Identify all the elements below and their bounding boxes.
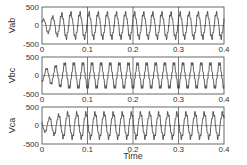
x-tick-label: 0.3: [173, 45, 185, 54]
figure: 500 0 -500 Vab 00.10.20.30.4 500 0 -500 …: [0, 0, 247, 165]
x-tick-label: 0.4: [218, 45, 230, 54]
x-tick-label: 0.1: [82, 45, 94, 54]
vab-xticks: 00.10.20.30.4: [40, 45, 230, 54]
panel-vca: 500 0 -500 Vca 00.10.20.30.4: [7, 103, 230, 154]
x-tick-label: 0.1: [82, 95, 94, 104]
vab-ylabel: Vab: [7, 18, 17, 33]
x-tick-label: 0.4: [218, 145, 230, 154]
vbc-ytick-top: 500: [26, 53, 40, 62]
vca-ytick-bot: -500: [23, 140, 40, 149]
vab-ytick-top: 500: [26, 3, 40, 12]
panel-vab: 500 0 -500 Vab 00.10.20.30.4: [7, 3, 230, 54]
x-tick-label: 0: [40, 145, 45, 154]
panel-vbc: 500 0 -500 Vbc 00.10.20.30.4: [7, 53, 230, 104]
x-tick-label: 0.3: [173, 95, 185, 104]
vca-ylabel: Vca: [7, 118, 17, 134]
x-tick-label: 0: [40, 95, 45, 104]
x-tick-label: 0: [40, 45, 45, 54]
vbc-xticks: 00.10.20.30.4: [40, 95, 230, 104]
vbc-ytick-mid: 0: [35, 71, 40, 80]
vca-ytick-top: 500: [26, 103, 40, 112]
x-axis-label: Time: [123, 151, 143, 161]
x-tick-label: 0.2: [127, 45, 139, 54]
vab-ytick-mid: 0: [35, 21, 40, 30]
x-tick-label: 0.2: [127, 95, 139, 104]
vbc-ytick-bot: -500: [23, 90, 40, 99]
x-tick-label: 0.3: [173, 145, 185, 154]
vbc-ylabel: Vbc: [7, 67, 17, 83]
x-tick-label: 0.4: [218, 95, 230, 104]
x-tick-label: 0.1: [82, 145, 94, 154]
vab-ytick-bot: -500: [23, 40, 40, 49]
vca-ytick-mid: 0: [35, 121, 40, 130]
